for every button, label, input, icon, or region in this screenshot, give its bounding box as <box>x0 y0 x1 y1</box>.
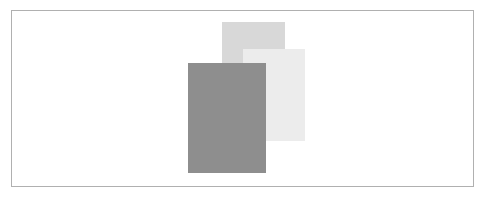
dark-grey-rectangle[interactable] <box>188 63 266 173</box>
figure-canvas <box>0 0 487 197</box>
